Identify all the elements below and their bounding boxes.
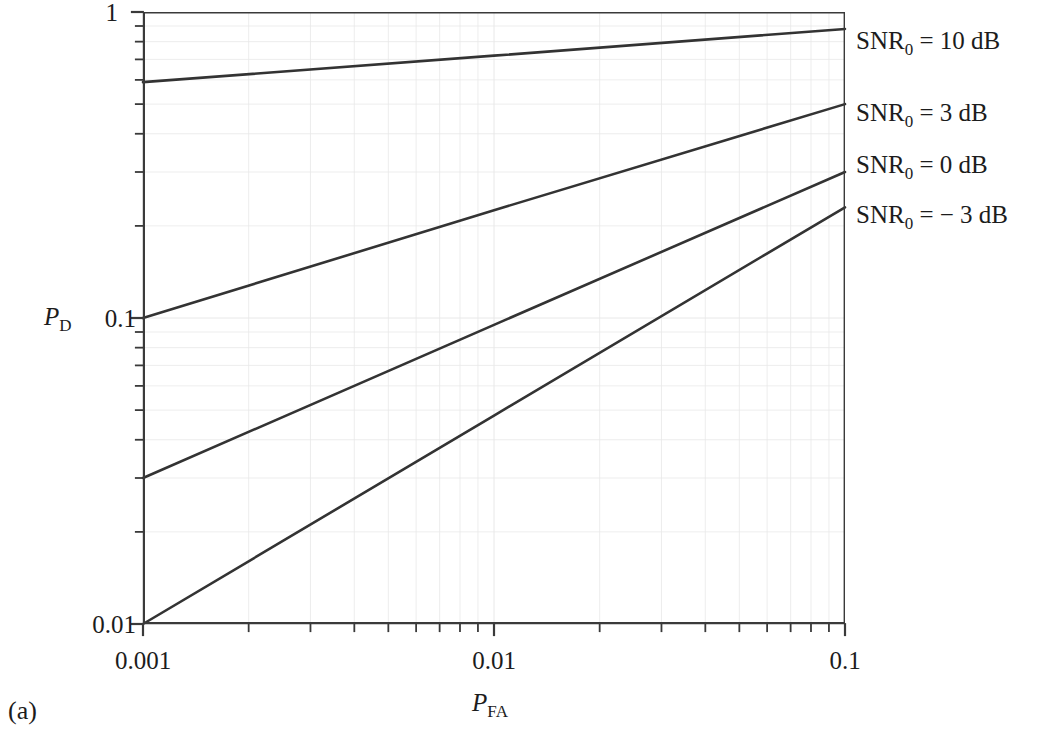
x-tick-label-0.01: 0.01 xyxy=(434,648,554,673)
grid-lines xyxy=(143,12,845,624)
y-axis-title-sub: D xyxy=(59,316,71,335)
legend-entry-snr-10db: SNR0 = 10 dB xyxy=(856,28,1000,58)
y-tick-label-0.01: 0.01 xyxy=(58,612,136,637)
y-tick-label-0.1: 0.1 xyxy=(78,306,136,331)
legend-entry-rest-2: = 0 dB xyxy=(913,151,988,178)
figure-caption: (a) xyxy=(8,698,37,724)
legend-entry-sub-2: 0 xyxy=(905,164,914,183)
legend-entry-rest-3: = − 3 dB xyxy=(913,201,1008,228)
legend-entry-var-2: SNR xyxy=(856,151,905,178)
legend-entry-var-0: SNR xyxy=(856,27,905,54)
x-axis-title-sub: FA xyxy=(487,702,508,721)
x-tick-label-0.1: 0.1 xyxy=(785,648,905,673)
legend-entry-sub-0: 0 xyxy=(905,40,914,59)
legend-entry-rest-1: = 3 dB xyxy=(913,99,988,126)
legend-entry-snr-3db: SNR0 = 3 dB xyxy=(856,100,988,130)
legend-entry-snr-0db: SNR0 = 0 dB xyxy=(856,152,988,182)
plot-canvas xyxy=(143,12,845,624)
legend-entry-sub-1: 0 xyxy=(905,112,914,131)
legend-entry-var-3: SNR xyxy=(856,201,905,228)
x-axis-title-var: P xyxy=(472,689,487,716)
legend-entry-sub-3: 0 xyxy=(905,214,914,233)
legend-entry-snr-minus-3db: SNR0 = − 3 dB xyxy=(856,202,1008,232)
legend-entry-var-1: SNR xyxy=(856,99,905,126)
x-axis-title: PFA xyxy=(472,690,508,720)
figure-roc-curves: 1 0.1 0.01 0.001 0.01 0.1 PD PFA SNR0 = … xyxy=(0,0,1041,738)
legend-entry-rest-0: = 10 dB xyxy=(913,27,1000,54)
y-tick-label-1: 1 xyxy=(60,0,118,25)
y-axis-title-var: P xyxy=(44,303,59,330)
y-axis-title: PD xyxy=(44,304,72,334)
plot-area xyxy=(143,12,845,624)
axis-ticks xyxy=(131,12,845,636)
legend: SNR0 = 10 dB SNR0 = 3 dB SNR0 = 0 dB SNR… xyxy=(856,0,1041,240)
x-tick-label-0.001: 0.001 xyxy=(83,648,203,673)
